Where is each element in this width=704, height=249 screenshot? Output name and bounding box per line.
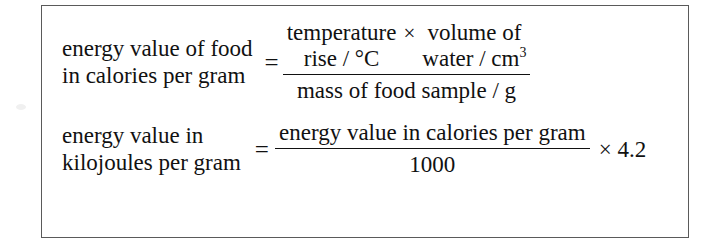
equation2-left-hand-side: energy value in kilojoules per gram: [62, 122, 241, 176]
equation1-numerator: temperature rise / °C × volume of water …: [283, 20, 531, 74]
equation1-lhs-line2: in calories per gram: [62, 62, 253, 89]
equation2-lhs-line1: energy value in: [62, 123, 203, 148]
equation1-numerator-right-line2-superscript: 3: [519, 45, 526, 60]
equation1-numerator-left-line2: rise / °C: [287, 46, 397, 72]
equation1-numerator-row: temperature rise / °C × volume of water …: [287, 20, 527, 72]
equation1-numerator-right-term: volume of water / cm3: [422, 20, 526, 72]
equation2-numerator-line2: calories per gram: [426, 120, 586, 145]
equation1-numerator-left-term: temperature rise / °C: [287, 20, 397, 72]
page-canvas: energy value of food in calories per gra…: [0, 0, 704, 249]
equation-energy-value-calories: energy value of food in calories per gra…: [62, 20, 530, 104]
equation2-denominator: 1000: [275, 149, 590, 178]
equation1-numerator-right-line2: water / cm3: [422, 46, 526, 72]
scan-artifact-speck: [16, 104, 26, 110]
equation1-lhs-line1: energy value of food: [62, 36, 253, 61]
equation2-conversion-factor: × 4.2: [599, 138, 646, 161]
equation1-equals-sign: =: [265, 50, 279, 75]
equation2-equals-sign: =: [255, 137, 269, 162]
equation1-left-hand-side: energy value of food in calories per gra…: [62, 35, 253, 89]
equation2-fraction: energy value in calories per gram 1000: [275, 120, 590, 178]
equation-energy-value-kilojoules: energy value in kilojoules per gram = en…: [62, 120, 646, 178]
equation1-denominator: mass of food sample / g: [283, 75, 531, 104]
multiplication-icon: ×: [396, 20, 422, 46]
equation1-numerator-right-line1: volume of: [422, 20, 526, 46]
equation1-numerator-left-line1: temperature: [287, 20, 397, 46]
equation2-numerator: energy value in calories per gram: [275, 120, 590, 148]
equation2-lhs-line2: kilojoules per gram: [62, 149, 241, 176]
equation2-numerator-line1: energy value in: [279, 120, 420, 145]
equation1-numerator-right-line2-text: water / cm: [422, 46, 519, 71]
formula-box: energy value of food in calories per gra…: [41, 5, 689, 238]
equation1-fraction: temperature rise / °C × volume of water …: [283, 20, 531, 104]
